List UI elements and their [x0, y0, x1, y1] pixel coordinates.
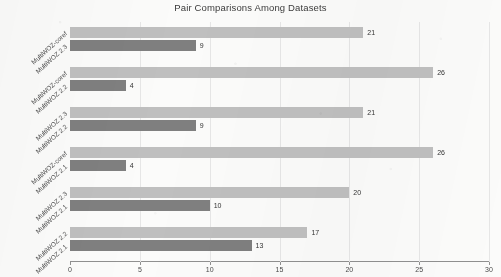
- bar-series-2: [70, 40, 196, 51]
- bar-series-1: [70, 27, 363, 38]
- gridline: [349, 22, 350, 262]
- gridline: [140, 22, 141, 262]
- bar-value-label: 26: [437, 149, 445, 156]
- x-axis-tick: [349, 262, 350, 265]
- bar-value-label: 17: [311, 229, 319, 236]
- x-axis-tick: [489, 262, 490, 265]
- gridline: [489, 22, 490, 262]
- bar-value-label: 9: [200, 42, 204, 49]
- bar-value-label: 10: [214, 202, 222, 209]
- x-axis-tick-label: 25: [415, 266, 423, 273]
- x-axis-tick: [210, 262, 211, 265]
- bar-series-2: [70, 80, 126, 91]
- bar-series-2: [70, 160, 126, 171]
- bar-value-label: 21: [367, 109, 375, 116]
- bar-value-label: 4: [130, 162, 134, 169]
- plot-area: 05101520253021926421926420101713: [70, 22, 489, 262]
- bar-value-label: 9: [200, 122, 204, 129]
- bar-value-label: 21: [367, 29, 375, 36]
- x-axis-tick: [70, 262, 71, 265]
- bar-value-label: 4: [130, 82, 134, 89]
- bar-series-1: [70, 67, 433, 78]
- bar-series-1: [70, 187, 349, 198]
- x-axis-tick-label: 10: [206, 266, 214, 273]
- bar-value-label: 20: [353, 189, 361, 196]
- x-axis-tick: [419, 262, 420, 265]
- gridline: [210, 22, 211, 262]
- x-axis-tick-label: 30: [485, 266, 493, 273]
- gridline: [280, 22, 281, 262]
- bar-value-label: 13: [256, 242, 264, 249]
- bar-series-1: [70, 107, 363, 118]
- chart-title: Pair Comparisons Among Datasets: [0, 2, 501, 13]
- gridline: [419, 22, 420, 262]
- bar-series-2: [70, 120, 196, 131]
- x-axis-tick-label: 0: [68, 266, 72, 273]
- x-axis-tick-label: 15: [276, 266, 284, 273]
- x-axis-tick: [140, 262, 141, 265]
- bar-series-2: [70, 240, 252, 251]
- x-axis-tick: [280, 262, 281, 265]
- x-axis-tick-label: 20: [345, 266, 353, 273]
- bar-value-label: 26: [437, 69, 445, 76]
- x-axis-tick-label: 5: [138, 266, 142, 273]
- bar-series-1: [70, 227, 307, 238]
- chart-canvas: Pair Comparisons Among Datasets 05101520…: [0, 0, 501, 277]
- bar-series-2: [70, 200, 210, 211]
- bar-series-1: [70, 147, 433, 158]
